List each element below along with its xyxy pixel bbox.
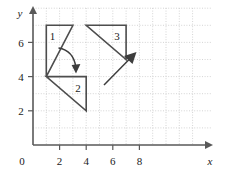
triangle-3-label: 3 bbox=[114, 30, 120, 42]
coordinate-plane-svg: y x 0 2 4 6 8 2 4 6 1 2 3 bbox=[0, 0, 226, 177]
y-axis-arrowhead bbox=[29, 6, 37, 14]
rotation-arrow bbox=[59, 48, 81, 74]
origin-label: 0 bbox=[19, 155, 25, 167]
y-tick-label-6: 6 bbox=[18, 37, 24, 49]
x-tick-label-2: 2 bbox=[57, 155, 63, 167]
geometry-figure: y x 0 2 4 6 8 2 4 6 1 2 3 bbox=[0, 0, 226, 177]
x-tick-label-8: 8 bbox=[137, 155, 143, 167]
x-tick-label-6: 6 bbox=[110, 155, 116, 167]
x-axis-label: x bbox=[207, 155, 213, 167]
triangle-1-label: 1 bbox=[50, 30, 56, 42]
axes bbox=[28, 6, 213, 150]
y-tick-label-4: 4 bbox=[18, 71, 24, 83]
x-tick-label-4: 4 bbox=[83, 155, 89, 167]
y-axis-label: y bbox=[17, 7, 23, 19]
triangle-2-label: 2 bbox=[75, 82, 81, 94]
translation-arrow bbox=[104, 52, 137, 85]
y-tick-label-2: 2 bbox=[18, 105, 24, 117]
rotation-arrow-path bbox=[59, 48, 76, 67]
x-axis-arrowhead bbox=[205, 141, 213, 149]
triangle-3 bbox=[86, 25, 126, 59]
